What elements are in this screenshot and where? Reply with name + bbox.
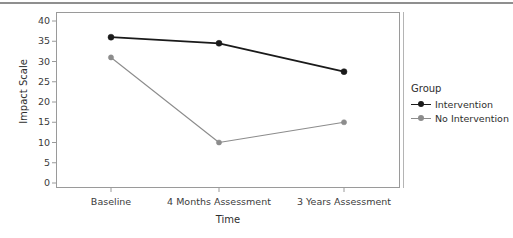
data-point-marker (216, 140, 221, 145)
data-point-marker (216, 40, 222, 46)
legend: Group InterventionNo Intervention (411, 83, 511, 125)
legend-dot-swatch (418, 101, 424, 107)
legend-entry[interactable]: Intervention (411, 97, 511, 111)
legend-divider (403, 12, 404, 188)
data-point-marker (341, 120, 346, 125)
legend-entry[interactable]: No Intervention (411, 111, 511, 125)
legend-entry-label: No Intervention (435, 113, 509, 124)
legend-entries: InterventionNo Intervention (411, 97, 511, 125)
series-line (111, 37, 344, 71)
series-line (111, 57, 344, 142)
chart-screenshot: 0510152025303540 Impact Scale Baseline4 … (0, 0, 513, 238)
legend-dot-swatch (418, 115, 424, 121)
data-point-marker (341, 69, 347, 75)
legend-key-icon (411, 112, 431, 124)
legend-entry-label: Intervention (435, 99, 493, 110)
data-point-marker (108, 34, 114, 40)
data-point-marker (108, 55, 113, 60)
legend-title: Group (411, 83, 511, 94)
legend-key-icon (411, 98, 431, 110)
